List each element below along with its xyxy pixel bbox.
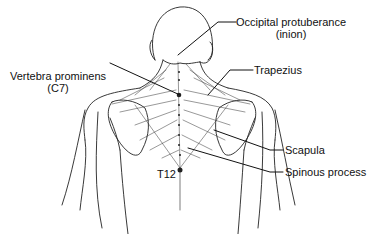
label-scapula: Scapula	[285, 144, 325, 156]
label-spinous-process: Spinous process	[285, 166, 366, 178]
label-text: T12	[157, 168, 176, 180]
label-vertebra-prominens: Vertebra prominens (C7)	[10, 70, 106, 94]
head-outline	[152, 7, 212, 63]
label-occipital-protuberance: Occipital protuberance (inion)	[236, 16, 346, 40]
left-scapula	[108, 100, 148, 155]
right-shoulder	[228, 88, 276, 140]
right-scapula	[216, 100, 256, 155]
label-text: Scapula	[285, 144, 325, 156]
label-subtext: (C7)	[10, 82, 106, 94]
label-text: Spinous process	[285, 166, 366, 178]
label-text: Occipital protuberance	[236, 16, 346, 28]
label-trapezius: Trapezius	[254, 64, 302, 76]
leader-lines	[110, 22, 283, 172]
label-text: Vertebra prominens	[10, 70, 106, 82]
label-subtext: (inion)	[236, 28, 346, 40]
label-text: Trapezius	[254, 64, 302, 76]
trapezius-fibers	[112, 62, 250, 168]
left-shoulder	[84, 88, 140, 140]
label-t12: T12	[157, 168, 176, 180]
